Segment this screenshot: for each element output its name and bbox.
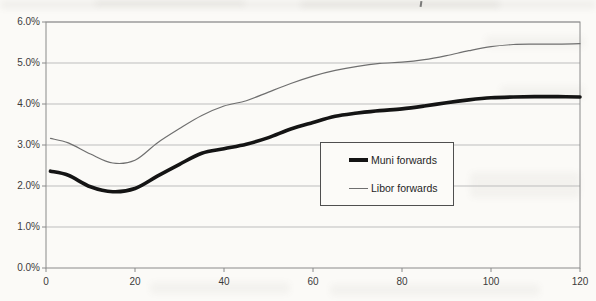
y-axis-label: 1.0% xyxy=(2,221,40,233)
legend-label-libor: Libor forwards xyxy=(371,181,438,195)
x-axis-label: 120 xyxy=(565,276,595,288)
scanned-chart-page: 0.0%1.0%2.0%3.0%4.0%5.0%6.0% 02040608010… xyxy=(0,0,596,301)
chart-canvas xyxy=(0,0,596,301)
legend-item-muni: Muni forwards xyxy=(349,153,437,167)
y-axis-label: 0.0% xyxy=(2,262,40,274)
x-axis-label: 0 xyxy=(31,276,61,288)
x-axis-label: 40 xyxy=(209,276,239,288)
y-axis-label: 5.0% xyxy=(2,57,40,69)
x-axis-label: 60 xyxy=(298,276,328,288)
y-axis-label: 3.0% xyxy=(2,139,40,151)
legend-label-muni: Muni forwards xyxy=(371,153,437,167)
y-axis-label: 2.0% xyxy=(2,180,40,192)
libor-line-sample xyxy=(349,188,368,189)
x-axis-label: 80 xyxy=(387,276,417,288)
series-line-muni-forwards xyxy=(51,97,581,192)
legend: Muni forwards Libor forwards xyxy=(320,142,454,206)
x-axis-label: 20 xyxy=(120,276,150,288)
x-axis-label: 100 xyxy=(476,276,506,288)
y-axis-label: 6.0% xyxy=(2,16,40,28)
y-axis-label: 4.0% xyxy=(2,98,40,110)
muni-line-sample xyxy=(349,158,368,162)
legend-item-libor: Libor forwards xyxy=(349,181,438,195)
